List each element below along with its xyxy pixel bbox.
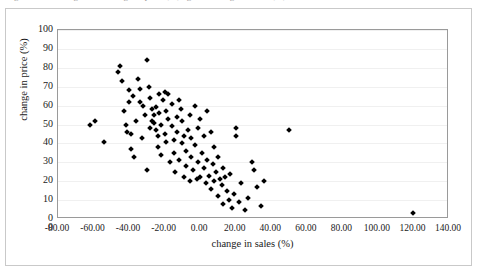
data-point <box>242 207 248 213</box>
data-point <box>233 125 239 131</box>
y-axis-tick-labels: 10090807060504030201000 <box>20 23 53 223</box>
data-point <box>116 69 122 75</box>
data-point <box>180 141 186 147</box>
data-point <box>126 99 132 105</box>
x-axis-tick-label: 40.00 <box>260 223 281 234</box>
data-point <box>251 167 257 173</box>
data-point <box>176 97 182 103</box>
x-axis-tick-label: -60.00 <box>80 223 105 234</box>
y-axis-tick-label: 50 <box>43 119 53 129</box>
data-point <box>144 57 150 63</box>
data-point <box>188 154 194 160</box>
data-point <box>249 159 255 165</box>
data-point <box>87 122 93 128</box>
data-point <box>130 93 136 99</box>
data-point <box>224 188 230 194</box>
data-point <box>180 118 186 124</box>
y-axis-tick-label: 10 <box>43 194 53 204</box>
data-point <box>206 173 212 179</box>
data-point <box>231 192 237 198</box>
data-point <box>192 142 198 148</box>
data-point <box>222 175 228 181</box>
data-point <box>139 135 145 141</box>
data-point <box>128 131 134 137</box>
data-point <box>158 122 164 128</box>
data-point <box>181 133 187 139</box>
gridline <box>58 106 447 107</box>
data-point <box>165 116 171 122</box>
data-point <box>167 159 173 165</box>
data-point <box>212 178 218 184</box>
data-point <box>190 167 196 173</box>
x-axis-tick-label: 80.00 <box>331 223 352 234</box>
y-axis-tick-label: 40 <box>43 137 53 147</box>
data-point <box>213 169 219 175</box>
data-point <box>183 148 189 154</box>
data-point <box>228 171 234 177</box>
data-point <box>199 150 205 156</box>
y-axis-tick-label: 20 <box>43 175 53 185</box>
data-point <box>169 124 175 130</box>
data-point <box>215 193 221 199</box>
data-point <box>128 146 134 152</box>
data-point <box>178 107 184 113</box>
gridline <box>58 181 447 182</box>
y-axis-tick-label: 80 <box>43 62 53 72</box>
data-point <box>210 161 216 167</box>
data-point <box>286 127 292 133</box>
data-point <box>158 152 164 158</box>
x-axis-tick-label: -40.00 <box>116 223 141 234</box>
x-axis-tick-label: -20.00 <box>151 223 176 234</box>
data-point <box>201 133 207 139</box>
x-axis-tick-label: 20.00 <box>224 223 245 234</box>
data-point <box>229 205 235 211</box>
data-point <box>220 201 226 207</box>
y-axis-tick-label: 70 <box>43 81 53 91</box>
data-point <box>196 125 202 131</box>
data-point <box>132 154 138 160</box>
data-point <box>212 144 218 150</box>
data-point <box>233 133 239 139</box>
gridline <box>58 200 447 201</box>
data-point <box>188 135 194 141</box>
data-point <box>185 127 191 133</box>
data-point <box>187 178 193 184</box>
data-point <box>181 175 187 181</box>
gridline <box>58 30 447 31</box>
data-point <box>140 103 146 109</box>
gridline <box>58 68 447 69</box>
data-point <box>146 84 152 90</box>
data-point <box>155 133 161 139</box>
data-point <box>119 78 125 84</box>
data-point <box>135 76 141 82</box>
data-point <box>148 95 154 101</box>
y-axis-tick-label: 60 <box>43 100 53 110</box>
data-point <box>162 131 168 137</box>
data-point <box>258 203 264 209</box>
data-point <box>220 165 226 171</box>
x-axis-tick-label: 100.00 <box>364 223 390 234</box>
x-axis-tick-label: -80.00 <box>45 223 70 234</box>
x-axis-tick-labels: -80.00-60.00-40.00-20.000.0020.0040.0060… <box>0 223 477 237</box>
gridline <box>58 143 447 144</box>
data-point <box>203 180 209 186</box>
gridline <box>58 125 447 126</box>
data-point <box>133 118 139 124</box>
scatter-plot-area <box>57 29 448 218</box>
data-point <box>183 163 189 169</box>
gridline <box>58 49 447 50</box>
data-point <box>160 97 166 103</box>
data-point <box>261 178 267 184</box>
data-point <box>174 114 180 120</box>
data-point <box>171 150 177 156</box>
data-point <box>196 159 202 165</box>
y-axis-tick-label: 100 <box>38 24 53 34</box>
y-axis-tick-label: 30 <box>43 156 53 166</box>
data-point <box>201 165 207 171</box>
data-point <box>215 154 221 160</box>
data-point <box>204 108 210 114</box>
data-point <box>126 88 132 94</box>
data-point <box>197 116 203 122</box>
x-axis-tick-label: 0.00 <box>191 223 208 234</box>
data-point <box>254 184 260 190</box>
